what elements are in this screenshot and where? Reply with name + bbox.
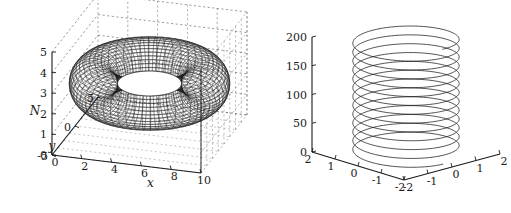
- axis-tick-label: -1: [372, 174, 383, 187]
- torus-mesh: [69, 37, 230, 131]
- gridline: [98, 15, 247, 33]
- axis-tick-label: 5: [87, 92, 94, 105]
- figure-container: 012345N-505y0246810x 050100150200210-1-2…: [0, 0, 511, 213]
- plot-panel-torus: 012345N-505y0246810x: [0, 0, 256, 213]
- axis-tick-label: 10: [197, 174, 211, 187]
- axis-tick: [427, 170, 428, 174]
- axis-tick-label: 2: [81, 160, 88, 173]
- plot-panel-helix: 050100150200210-1-2-2-1012: [255, 0, 511, 213]
- axis-tick-label: 5: [40, 46, 47, 59]
- helix-curve: [353, 26, 459, 167]
- helix-line: [353, 26, 459, 167]
- axis-tick: [312, 36, 316, 37]
- axis-tick-label: 2: [40, 108, 47, 121]
- axis-tick-label: 8: [171, 170, 178, 183]
- gridline: [58, 148, 207, 166]
- axis-tick-label: 4: [40, 67, 47, 80]
- axis-tick-label: 0: [351, 167, 358, 180]
- axis-tick-label: 1: [328, 160, 335, 173]
- y-axis-name: y: [48, 139, 56, 153]
- axis-tick-label: 0: [453, 168, 460, 181]
- axis-tick-label: 50: [293, 117, 307, 130]
- axis-tick: [335, 155, 336, 159]
- gridline: [64, 141, 213, 159]
- axis-tick-label: 2: [501, 155, 508, 168]
- axis-tick: [451, 163, 452, 167]
- axis-tick-label: 150: [286, 60, 307, 73]
- axis-tick: [358, 162, 359, 166]
- axis-tick-label: -1: [427, 175, 438, 188]
- axis-tick: [312, 94, 316, 95]
- axis-tick-label: 200: [286, 31, 307, 44]
- axis-tick: [75, 126, 79, 128]
- gridline: [98, 0, 247, 12]
- helix-3d-plot: 050100150200210-1-2-2-1012: [255, 0, 511, 213]
- axis-tick: [499, 150, 500, 154]
- axis-tick-label: 1: [477, 162, 484, 175]
- helix-axis-labels: 050100150200210-1-2-2-1012: [286, 31, 508, 194]
- axis-tick: [312, 65, 316, 66]
- axis-tick-label: -2: [403, 181, 414, 194]
- axis-tick-label: 4: [111, 163, 118, 176]
- torus-3d-plot: 012345N-505y0246810x: [0, 0, 256, 213]
- axis-tick-label: 2: [305, 153, 312, 166]
- axis-tick-label: 0: [64, 121, 71, 134]
- axis-tick: [312, 122, 316, 123]
- axis-tick-label: 3: [40, 87, 47, 100]
- z-axis-name: N: [29, 104, 41, 118]
- gridline: [69, 133, 218, 151]
- axis-tick-label: 0: [52, 156, 59, 169]
- axis-tick-label: -5: [37, 150, 48, 163]
- axis-tick-label: 100: [286, 89, 307, 102]
- axis-tick: [475, 157, 476, 161]
- axis-tick-label: 1: [40, 128, 47, 141]
- axis-tick: [381, 169, 382, 173]
- x-axis-name: x: [147, 176, 154, 190]
- axis-line: [52, 155, 201, 173]
- gridline: [52, 0, 98, 52]
